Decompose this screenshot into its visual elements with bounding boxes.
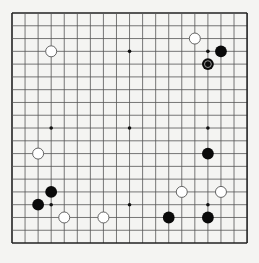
star-point bbox=[206, 203, 210, 207]
white-stone-icon bbox=[59, 212, 70, 223]
star-point bbox=[128, 203, 132, 207]
white-stone[interactable] bbox=[215, 186, 226, 197]
white-stone[interactable] bbox=[98, 212, 109, 223]
white-stone-icon bbox=[189, 33, 200, 44]
star-point bbox=[206, 50, 210, 54]
go-board[interactable] bbox=[0, 0, 259, 263]
white-stone-icon bbox=[98, 212, 109, 223]
white-stone[interactable] bbox=[59, 212, 70, 223]
white-stone-icon bbox=[176, 186, 187, 197]
black-stone-icon bbox=[202, 58, 214, 70]
white-stone-icon bbox=[215, 186, 226, 197]
white-stone-icon bbox=[46, 46, 57, 57]
black-stone-icon bbox=[215, 45, 227, 57]
white-stone-icon bbox=[33, 148, 44, 159]
black-stone-icon bbox=[45, 186, 57, 198]
white-stone[interactable] bbox=[33, 148, 44, 159]
white-stone[interactable] bbox=[189, 33, 200, 44]
star-point bbox=[128, 50, 132, 54]
black-stone-icon bbox=[32, 199, 44, 211]
star-point bbox=[128, 126, 132, 130]
black-stone[interactable] bbox=[163, 212, 175, 224]
star-point bbox=[206, 126, 210, 130]
black-stone-icon bbox=[202, 212, 214, 224]
black-stone[interactable] bbox=[202, 58, 214, 70]
star-point bbox=[49, 126, 53, 130]
go-board-grid[interactable] bbox=[0, 0, 259, 263]
star-point bbox=[49, 203, 53, 207]
white-stone[interactable] bbox=[46, 46, 57, 57]
black-stone[interactable] bbox=[202, 212, 214, 224]
black-stone[interactable] bbox=[32, 199, 44, 211]
black-stone-icon bbox=[202, 148, 214, 160]
black-stone[interactable] bbox=[45, 186, 57, 198]
white-stone[interactable] bbox=[176, 186, 187, 197]
black-stone[interactable] bbox=[202, 148, 214, 160]
black-stone[interactable] bbox=[215, 45, 227, 57]
black-stone-icon bbox=[163, 212, 175, 224]
